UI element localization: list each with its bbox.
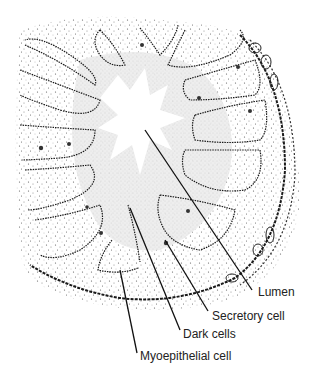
label-secretory-cell: Secretory cell [212,309,285,323]
label-lumen: Lumen [258,285,295,299]
label-dark-cells: Dark cells [183,327,236,341]
label-myoepithelial-cell: Myoepithelial cell [140,349,231,363]
gland-body [0,0,315,382]
gland-cross-section-figure [0,0,315,382]
